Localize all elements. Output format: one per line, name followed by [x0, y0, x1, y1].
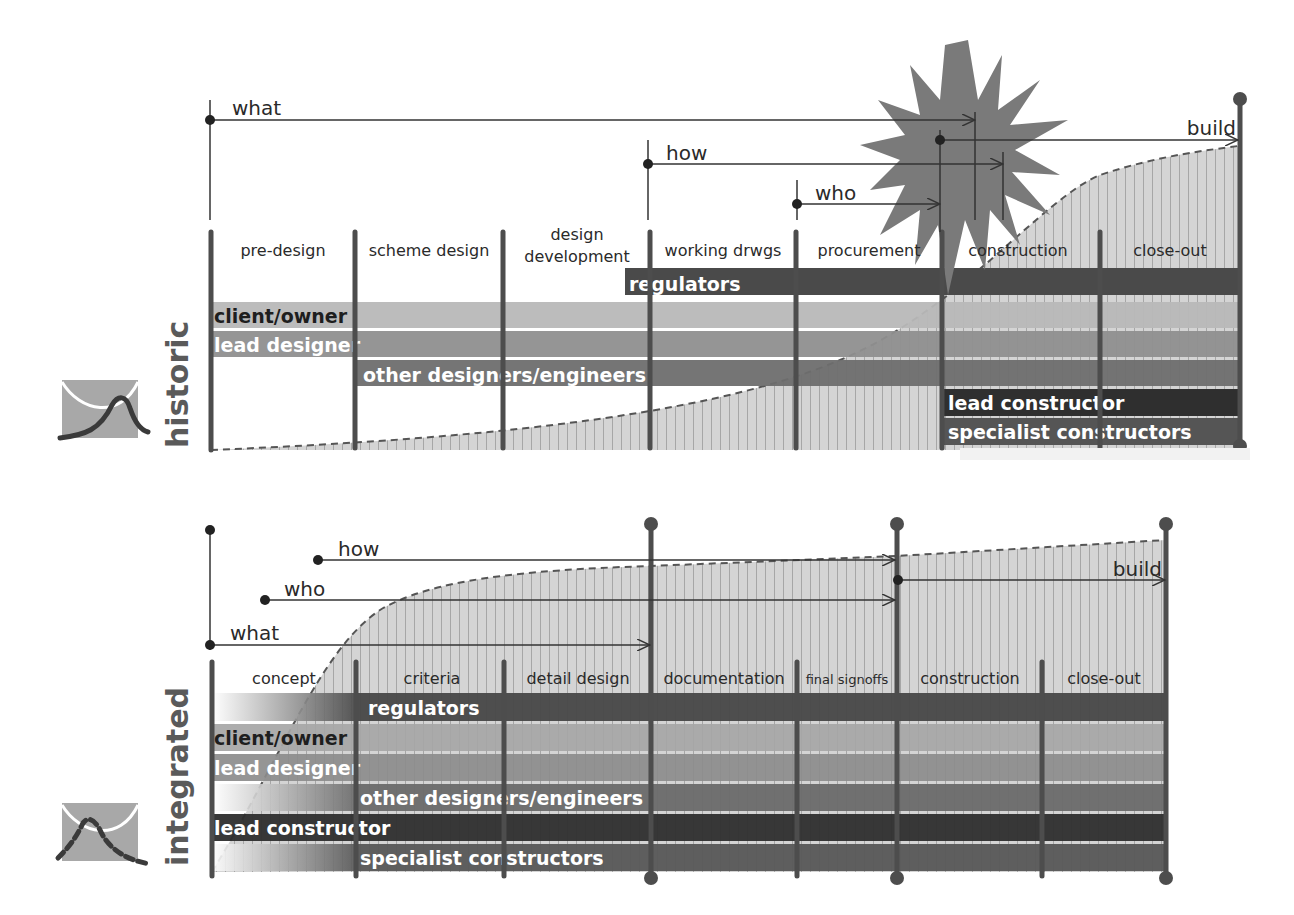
integrated-panel: regulators client/owner lead designer ot… [58, 517, 1173, 885]
dashed-bell-curve-icon [58, 803, 150, 864]
arrow-label-build: build [1187, 116, 1236, 140]
label-client-owner: client/owner [214, 305, 348, 327]
label-specialist-constructors: specialist constructors [948, 421, 1192, 443]
phase-scheme-design: scheme design [369, 241, 490, 260]
phase-criteria: criteria [404, 669, 461, 688]
who-node [260, 595, 270, 605]
arrow-label-who: who [284, 577, 325, 601]
side-label-integrated: integrated [160, 687, 195, 866]
end-node-top [1233, 92, 1247, 106]
arrow-label-how: how [338, 537, 379, 561]
bar-specialist-fade [212, 844, 356, 871]
phase-design-development-2: development [524, 247, 630, 266]
label-other-designers: other designers/engineers [360, 787, 643, 809]
how-node [643, 159, 653, 169]
bell-curve-peak-icon [60, 380, 148, 438]
top-node [205, 525, 215, 535]
phase-construction: construction [920, 669, 1020, 688]
bar-lead-designer [211, 331, 1240, 357]
arrow-label-what: what [230, 621, 279, 645]
phase-design-development-1: design [550, 225, 603, 244]
label-regulators: regulators [629, 273, 741, 295]
label-lead-designer: lead designer [214, 757, 361, 779]
what-node [205, 640, 215, 650]
what-node [205, 115, 215, 125]
label-client-owner: client/owner [214, 727, 348, 749]
side-label-historic: historic [160, 321, 195, 448]
bar-regulators-fade [212, 693, 356, 721]
build-node [935, 135, 945, 145]
bleed-through-text-ghost [960, 448, 1250, 460]
bar-client-owner [211, 302, 1240, 328]
phase-detail-design: detail design [526, 669, 629, 688]
label-lead-constructor: lead constructor [214, 817, 391, 839]
phase-documentation: documentation [663, 669, 784, 688]
who-node [792, 199, 802, 209]
arrow-label-who: who [815, 181, 856, 205]
arrow-label-what: what [232, 96, 281, 120]
historic-panel: regulators client/owner lead designer ot… [60, 40, 1247, 453]
phase-procurement: procurement [817, 241, 920, 260]
phase-pre-design: pre-design [240, 241, 325, 260]
label-regulators: regulators [368, 697, 480, 719]
phase-final-signoffs: final signoffs [806, 672, 889, 687]
phase-concept: concept [252, 669, 316, 688]
phase-close-out: close-out [1133, 241, 1206, 260]
phase-close-out: close-out [1067, 669, 1140, 688]
bar-other-designers-fade [212, 784, 356, 811]
phase-working-drwgs: working drwgs [665, 241, 782, 260]
phase-construction: construction [968, 241, 1068, 260]
how-node [313, 555, 323, 565]
label-specialist-constructors: specialist constructors [360, 847, 604, 869]
arrow-label-how: how [666, 141, 707, 165]
arrow-label-build: build [1113, 557, 1162, 581]
project-delivery-diagram: regulators client/owner lead designer ot… [0, 0, 1294, 915]
label-lead-designer: lead designer [214, 334, 361, 356]
build-node [893, 575, 903, 585]
